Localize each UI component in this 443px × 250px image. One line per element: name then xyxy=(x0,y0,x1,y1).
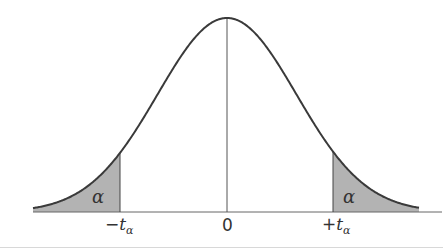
alpha-subscript: α xyxy=(126,224,133,237)
bell-curve xyxy=(33,18,419,208)
minus-sign: − xyxy=(105,214,119,234)
distribution-plot xyxy=(0,0,443,250)
left-alpha-label: α xyxy=(92,188,104,206)
pos-t-alpha-label: +tα xyxy=(322,216,351,233)
zero-label: 0 xyxy=(222,217,233,234)
alpha-subscript: α xyxy=(343,224,350,237)
plus-sign: + xyxy=(322,214,336,234)
right-alpha-label: α xyxy=(343,188,355,206)
neg-t-alpha-label: −tα xyxy=(105,216,134,233)
left-tail-shaded-region xyxy=(33,153,120,212)
bottom-divider xyxy=(0,247,443,248)
